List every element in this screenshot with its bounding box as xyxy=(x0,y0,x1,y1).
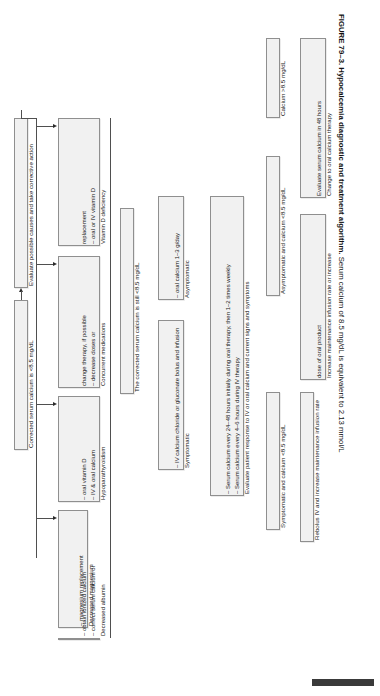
arrow-spine-branch-1 xyxy=(53,262,57,266)
node-evaluate-response-line2: – Serum calcium every 4–6 hours during I… xyxy=(233,357,242,494)
node-asymptomatic: Asymptomatic– oral calcium 1–3 g/day xyxy=(158,196,184,300)
node-asymptomatic-low-line1: Asymptomatic and calcium <8.5 mg/dL xyxy=(279,188,288,294)
node-symptomatic: Symptomatic– IV calcium chloride or gluc… xyxy=(158,320,184,470)
node-change-to-oral-line1: Change to oral calcium therapy xyxy=(325,113,334,196)
node-decreased-albumin-line2: – correct serum calcium or xyxy=(89,565,98,636)
node-concurrent-medications-line2: – decrease doses or xyxy=(89,332,98,386)
connector-causes-bus-stub xyxy=(21,110,22,118)
node-hypoparathyroidism-line2: – IV & oral calcium xyxy=(89,450,98,500)
node-evaluate-response: Evaluate patient response to IV or oral … xyxy=(210,196,244,496)
node-hypoparathyroidism-line1: Hypoparathyroidism xyxy=(99,447,108,500)
node-vitamin-d-deficiency: Vitamin D deficiency– oral or IV vitamin… xyxy=(58,118,100,246)
node-decreased-albumin-line1: Decreased albumin xyxy=(99,584,108,636)
node-evaluate-response-line3: – Serum calcium every 24–48 hours initia… xyxy=(224,264,233,494)
connector-spine-branch-1 xyxy=(36,264,54,265)
connector-start-to-evaluate xyxy=(21,291,22,300)
node-hypoparathyroidism: Hypoparathyroidism– IV & oral calcium– o… xyxy=(58,396,100,502)
node-asymptomatic-line2: – oral calcium 1–3 g/day xyxy=(173,233,182,298)
node-evaluate-causes-line1: Evaluate possible causes and take correc… xyxy=(27,144,36,286)
node-evaluate-response-line1: Evaluate patient response to IV or oral … xyxy=(243,282,252,494)
node-change-to-oral: Change to oral calcium therapyEvaluate s… xyxy=(300,38,326,198)
node-asymptomatic-line1: Asymptomatic xyxy=(183,260,192,298)
node-asymptomatic-low: Asymptomatic and calcium <8.5 mg/dL xyxy=(266,156,280,296)
node-start: Corrected serum calcium is <8.5 mg/dL xyxy=(14,300,28,450)
node-still-low: The corrected serum calcium is still <8.… xyxy=(120,208,134,394)
node-calcium-normal: Calcium >8.5 mg/dL xyxy=(266,38,280,118)
node-rebolus: Rebolus IV and increase maintenance infu… xyxy=(300,392,314,542)
node-still-low-line1: The corrected serum calcium is still <8.… xyxy=(133,263,142,392)
node-vitamin-d-deficiency-line2: – oral or IV vitamin D xyxy=(89,188,98,244)
arrow-spine-branch-0 xyxy=(53,124,57,128)
node-decreased-albumin: Decreased albumin– correct serum calcium… xyxy=(58,638,100,640)
node-concurrent-medications: Concurrent medications– decrease doses o… xyxy=(58,256,100,388)
node-decreased-albumin-line3: – obtain ionized calcium xyxy=(80,572,89,636)
connector-spine-branch-0 xyxy=(36,126,54,127)
node-symptomatic-low: Symptomatic and calcium <8.5 mg/dL xyxy=(266,392,280,530)
node-increase-maintenance-line1: Increase maintenance infusion rate or in… xyxy=(325,253,334,378)
node-symptomatic-line1: Symptomatic xyxy=(183,433,192,468)
node-rebolus-line1: Rebolus IV and increase maintenance infu… xyxy=(313,400,322,540)
node-start-line1: Corrected serum calcium is <8.5 mg/dL xyxy=(27,340,36,448)
connector-causes-merge xyxy=(110,118,111,638)
node-change-to-oral-line2: Evaluate serum calcium in 48 hours xyxy=(315,101,324,196)
node-calcium-normal-line1: Calcium >8.5 mg/dL xyxy=(279,61,288,116)
node-increase-maintenance-line2: dose of oral product xyxy=(315,325,324,378)
node-vitamin-d-deficiency-line3: replacement xyxy=(80,211,89,244)
node-hypoparathyroidism-line3: – oral vitamin D xyxy=(80,458,89,500)
node-increase-maintenance: Increase maintenance infusion rate or in… xyxy=(300,214,326,380)
node-symptomatic-line2: – IV calcium chloride or gluconate bolus… xyxy=(173,328,182,468)
connector-causes-spine-top xyxy=(21,118,37,119)
connector-spine-branch-2 xyxy=(36,404,54,405)
node-evaluate-causes: Evaluate possible causes and take correc… xyxy=(14,118,28,288)
figure-render: Corrected serum calcium is <8.5 mg/dLEva… xyxy=(0,0,380,696)
node-vitamin-d-deficiency-line1: Vitamin D deficiency xyxy=(99,190,108,244)
node-concurrent-medications-line3: change therapy, if possible xyxy=(80,315,89,386)
node-concurrent-medications-line1: Concurrent medications xyxy=(99,323,108,386)
arrow-spine-branch-2 xyxy=(53,402,57,406)
node-symptomatic-low-line1: Symptomatic and calcium <8.5 mg/dL xyxy=(279,425,288,528)
connector-spine-branch-3 xyxy=(36,518,54,519)
arrow-spine-branch-3 xyxy=(53,516,57,520)
connector-causes-spine xyxy=(36,118,37,558)
